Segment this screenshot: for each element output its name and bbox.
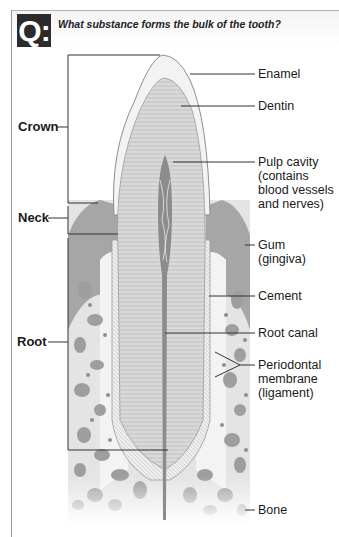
label-bone: Bone <box>258 503 287 517</box>
label-cement: Cement <box>258 289 302 303</box>
label-pulp-cavity: Pulp cavity (contains blood vessels and … <box>258 155 334 211</box>
label-gum: Gum (gingiva) <box>258 238 306 266</box>
label-dentin: Dentin <box>258 99 294 113</box>
label-neck: Neck <box>18 211 49 225</box>
label-root-canal: Root canal <box>258 326 318 340</box>
label-crown: Crown <box>18 120 58 134</box>
dentin <box>117 78 205 470</box>
label-enamel: Enamel <box>258 67 300 81</box>
label-periodontal-membrane: Periodontal membrane (ligament) <box>258 358 321 400</box>
label-root: Root <box>17 335 47 349</box>
